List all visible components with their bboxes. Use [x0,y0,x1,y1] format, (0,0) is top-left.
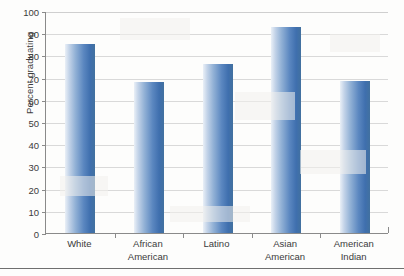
y-axis-tick [42,212,46,213]
x-axis-category-label: Asian American [251,238,320,263]
y-axis-tick-label: 30 [28,162,39,173]
y-axis-tick-label: 80 [28,51,39,62]
y-axis-tick [42,101,46,102]
y-axis-tick [42,56,46,57]
gridline [46,56,388,57]
y-axis-tick-label: 0 [34,229,39,240]
y-axis-tick-label: 10 [28,206,39,217]
bar-chart-figure: Percent graduating 010203040506070809010… [0,0,404,276]
y-axis-tick-label: 90 [28,29,39,40]
y-axis-tick [42,234,46,235]
x-axis-category-label: Latino [182,238,251,251]
y-axis-tick-label: 60 [28,95,39,106]
bar [65,44,95,233]
bar [340,81,370,233]
y-axis-tick [42,12,46,13]
x-axis-category-label: White [45,238,114,251]
y-axis-tick-label: 50 [28,118,39,129]
bottom-divider-rule [0,268,404,269]
gridline [46,12,388,13]
gridline [46,34,388,35]
y-axis-tick [42,190,46,191]
x-axis-category-label: American Indian [319,238,388,263]
y-axis-tick [42,167,46,168]
bar [203,64,233,233]
y-axis-tick-label: 100 [23,7,39,18]
y-axis-tick [42,34,46,35]
y-axis-tick-label: 70 [28,73,39,84]
x-axis-right-end-tick [388,227,389,233]
bar [134,82,164,233]
y-axis-tick-label: 40 [28,140,39,151]
y-axis-tick-label: 20 [28,184,39,195]
x-axis-category-label: African American [114,238,183,263]
bar [271,27,301,233]
y-axis-tick [42,123,46,124]
y-axis-tick [42,145,46,146]
y-axis-tick [42,79,46,80]
plot-area: 0102030405060708090100 [45,12,388,234]
